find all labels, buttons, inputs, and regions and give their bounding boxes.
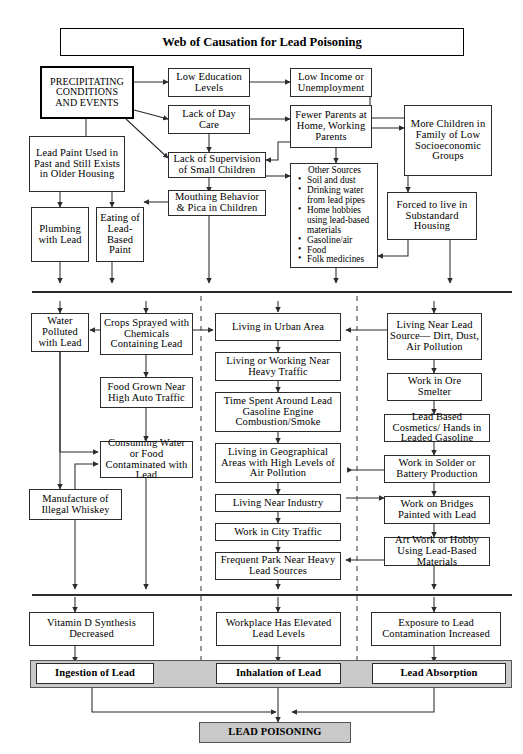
- web-of-causation-diagram: Web of Causation for Lead Poisoning PREC…: [0, 0, 523, 754]
- node-label: Living or Working Near Heavy Traffic: [216, 356, 340, 378]
- node-work-solder-battery: Work in Solder or Battery Production: [384, 455, 490, 483]
- node-label: Work in Ore Smelter: [388, 376, 481, 398]
- node-label: Art Work or Hobby Using Lead-Based Mater…: [385, 535, 489, 568]
- node-label: Manufacture of Illegal Whiskey: [30, 494, 121, 516]
- node-eating-lead-based-paint: Eating of Lead-Based Paint: [96, 207, 144, 262]
- diagram-title-box: Web of Causation for Lead Poisoning: [60, 28, 464, 56]
- node-label: More Children in Family of Low Socioecon…: [405, 119, 491, 163]
- node-lack-supervision: Lack of Supervision of Small Children: [168, 152, 266, 178]
- node-label: Living in Geographical Areas with High L…: [216, 447, 340, 480]
- node-label: Water Polluted with Lead: [32, 316, 88, 349]
- node-other-sources: Other Sources Soil and dust Drinking wat…: [290, 163, 378, 268]
- node-label: Work in City Traffic: [232, 527, 324, 538]
- node-label: Frequent Park Near Heavy Lead Sources: [216, 555, 340, 577]
- node-label: Living Near Industry: [231, 498, 326, 509]
- page-title: Web of Causation for Lead Poisoning: [162, 35, 361, 50]
- node-living-near-industry: Living Near Industry: [215, 494, 341, 512]
- node-work-city-traffic: Work in City Traffic: [215, 523, 341, 541]
- node-plumbing-with-lead: Plumbing with Lead: [31, 207, 89, 262]
- node-lead-cosmetics: Lead Based Cosmetics/ Hands in Leaded Ga…: [384, 414, 490, 442]
- node-living-geographical-areas: Living in Geographical Areas with High L…: [215, 443, 341, 483]
- node-label: Crops Sprayed with Chemicals Containing …: [101, 318, 192, 351]
- node-label: Low Income or Unemployment: [291, 72, 371, 94]
- node-label: PRECIPITATING CONDITIONS AND EVENTS: [42, 77, 132, 108]
- node-label: Lack of Supervision of Small Children: [169, 154, 265, 176]
- node-precipitating-conditions: PRECIPITATING CONDITIONS AND EVENTS: [40, 66, 134, 119]
- other-sources-list: Soil and dust Drinking water from lead p…: [295, 176, 374, 265]
- node-living-near-lead-source: Living Near Lead Source— Dirt, Dust, Air…: [387, 313, 482, 360]
- list-item: Home hobbies using lead-based materials: [307, 206, 374, 236]
- node-label: Mouthing Behavior & Pica in Children: [169, 192, 265, 214]
- node-more-children: More Children in Family of Low Socioecon…: [404, 105, 492, 176]
- node-food-grown-near-traffic: Food Grown Near High Auto Traffic: [100, 377, 193, 408]
- node-label: Lack of Day Care: [169, 109, 249, 131]
- node-crops-sprayed: Crops Sprayed with Chemicals Containing …: [100, 313, 193, 355]
- node-label: Lead Absorption: [398, 668, 479, 679]
- node-label: Ingestion of Lead: [53, 668, 137, 679]
- node-low-education: Low Education Levels: [168, 68, 250, 97]
- node-ingestion-of-lead: Ingestion of Lead: [36, 663, 154, 684]
- node-mouthing-pica: Mouthing Behavior & Pica in Children: [168, 190, 266, 216]
- node-exposure-increased: Exposure to Lead Contamination Increased: [371, 612, 501, 646]
- node-lead-poisoning: LEAD POISONING: [199, 722, 351, 743]
- node-label: Fewer Parents at Home, Working Parents: [291, 110, 371, 143]
- node-consuming-water-food: Consuming Water or Food Contaminated wit…: [100, 441, 193, 478]
- node-living-near-heavy-traffic: Living or Working Near Heavy Traffic: [215, 352, 341, 381]
- node-fewer-parents: Fewer Parents at Home, Working Parents: [290, 105, 372, 148]
- node-label: Work on Bridges Painted with Lead: [385, 499, 489, 521]
- node-living-urban-area: Living in Urban Area: [215, 313, 341, 341]
- node-low-income: Low Income or Unemployment: [290, 68, 372, 97]
- node-label: Eating of Lead-Based Paint: [97, 213, 143, 257]
- node-work-ore-smelter: Work in Ore Smelter: [387, 373, 482, 401]
- node-vitamin-d-decreased: Vitamin D Synthesis Decreased: [29, 612, 154, 646]
- node-water-polluted: Water Polluted with Lead: [31, 313, 89, 352]
- node-art-work-hobby: Art Work or Hobby Using Lead-Based Mater…: [384, 537, 490, 566]
- node-time-spent-gasoline: Time Spent Around Lead Gasoline Engine C…: [215, 392, 341, 432]
- node-lead-paint-older-housing: Lead Paint Used in Past and Still Exists…: [29, 136, 125, 192]
- node-lead-absorption: Lead Absorption: [372, 663, 506, 684]
- node-manufacture-illegal-whiskey: Manufacture of Illegal Whiskey: [29, 489, 122, 520]
- node-inhalation-of-lead: Inhalation of Lead: [216, 663, 341, 684]
- node-label: Consuming Water or Food Contaminated wit…: [101, 438, 192, 482]
- node-label: Lead Paint Used in Past and Still Exists…: [30, 148, 124, 181]
- node-frequent-park: Frequent Park Near Heavy Lead Sources: [215, 552, 341, 580]
- node-label: Inhalation of Lead: [234, 668, 323, 679]
- node-lack-day-care: Lack of Day Care: [168, 105, 250, 134]
- node-work-on-bridges: Work on Bridges Painted with Lead: [384, 496, 490, 524]
- node-label: Low Education Levels: [169, 72, 249, 94]
- node-label: Time Spent Around Lead Gasoline Engine C…: [216, 396, 340, 429]
- node-label: Work in Solder or Battery Production: [385, 458, 489, 480]
- node-label: Forced to live in Substandard Housing: [388, 200, 476, 233]
- node-label: Living in Urban Area: [230, 322, 326, 333]
- node-label: Workplace Has Elevated Lead Levels: [217, 618, 340, 640]
- list-item: Gasoline/air: [307, 236, 374, 246]
- node-label: Lead Based Cosmetics/ Hands in Leaded Ga…: [385, 412, 489, 445]
- list-item: Folk medicines: [307, 255, 374, 265]
- node-forced-substandard-housing: Forced to live in Substandard Housing: [387, 192, 477, 240]
- node-label: Vitamin D Synthesis Decreased: [30, 618, 153, 640]
- node-label: Living Near Lead Source— Dirt, Dust, Air…: [388, 320, 481, 353]
- node-workplace-elevated-lead: Workplace Has Elevated Lead Levels: [216, 612, 341, 646]
- list-item: Drinking water from lead pipes: [307, 186, 374, 206]
- node-label: LEAD POISONING: [226, 727, 323, 738]
- node-label: Food Grown Near High Auto Traffic: [101, 382, 192, 404]
- node-label: Exposure to Lead Contamination Increased: [372, 618, 500, 640]
- node-label: Plumbing with Lead: [32, 224, 88, 246]
